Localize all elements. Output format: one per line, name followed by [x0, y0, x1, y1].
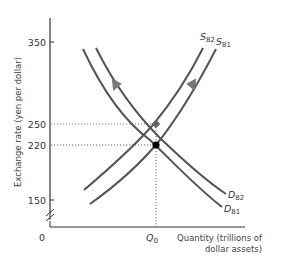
x-axis-title-line1: Quantity (trillions of — [177, 233, 263, 243]
q0-label: Q0 — [146, 232, 158, 245]
new-equilibrium-point — [152, 120, 160, 128]
curve-d81 — [83, 49, 222, 207]
x-axis-title-line2: dollar assets) — [205, 244, 262, 254]
label-s81: S81 — [216, 36, 231, 49]
y-tick-label-220: 220 — [28, 140, 46, 151]
label-d81: D81 — [224, 203, 240, 216]
label-s82: S82 — [200, 31, 215, 44]
chart-container: 350 250 220 150 0 Exchange rate (yen per… — [0, 0, 289, 256]
y-tick-label-150: 150 — [28, 195, 46, 206]
origin-label: 0 — [39, 232, 45, 243]
curve-d82 — [96, 48, 226, 194]
initial-equilibrium-point — [152, 141, 159, 148]
y-tick-label-350: 350 — [28, 37, 46, 48]
y-tick-label-250: 250 — [28, 119, 46, 130]
exchange-rate-chart: 350 250 220 150 0 Exchange rate (yen per… — [0, 0, 289, 256]
label-d82: D82 — [228, 189, 244, 202]
y-axis-title: Exchange rate (yen per dollar) — [13, 57, 23, 187]
